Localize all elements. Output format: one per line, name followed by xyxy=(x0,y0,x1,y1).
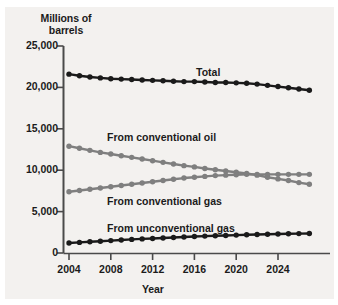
data-point xyxy=(98,150,103,155)
data-point xyxy=(171,177,176,182)
x-axis-tick-label: 2012 xyxy=(133,263,173,275)
data-point xyxy=(181,234,186,239)
data-point xyxy=(66,189,71,194)
data-point xyxy=(275,231,280,236)
data-point xyxy=(108,184,113,189)
chart-figure: Millions of barrels 25,00020,00015,00010… xyxy=(0,0,338,305)
data-point xyxy=(150,179,155,184)
x-axis-tick-label: 2004 xyxy=(49,263,89,275)
data-point xyxy=(139,180,144,185)
data-point xyxy=(265,83,270,88)
data-point xyxy=(286,172,291,177)
data-point xyxy=(160,178,165,183)
data-point xyxy=(286,231,291,236)
data-point xyxy=(77,73,82,78)
x-axis-ticks xyxy=(69,254,278,261)
data-point xyxy=(171,235,176,240)
data-point xyxy=(119,183,124,188)
data-point xyxy=(181,79,186,84)
data-point xyxy=(139,77,144,82)
data-point xyxy=(87,239,92,244)
series-from-conventional-oil xyxy=(66,143,312,186)
series-annotation-label: From conventional gas xyxy=(107,195,222,207)
data-point xyxy=(223,172,228,177)
data-point xyxy=(286,178,291,183)
data-point xyxy=(66,71,71,76)
x-axis-tick-label: 2020 xyxy=(216,263,256,275)
data-point xyxy=(129,182,134,187)
data-point xyxy=(307,88,312,93)
data-point xyxy=(192,164,197,169)
data-point xyxy=(286,85,291,90)
chart-series-group xyxy=(66,71,312,245)
data-point xyxy=(160,160,165,165)
data-point xyxy=(150,236,155,241)
data-point xyxy=(150,78,155,83)
data-point xyxy=(213,80,218,85)
data-point xyxy=(202,174,207,179)
series-annotation-label: From unconventional gas xyxy=(107,222,235,234)
data-point xyxy=(108,151,113,156)
data-point xyxy=(202,166,207,171)
x-axis-tick-label: 2016 xyxy=(174,263,214,275)
data-point xyxy=(98,239,103,244)
data-point xyxy=(77,240,82,245)
data-point xyxy=(171,161,176,166)
data-point xyxy=(213,173,218,178)
data-point xyxy=(108,76,113,81)
data-point xyxy=(181,175,186,180)
data-point xyxy=(171,78,176,83)
y-axis-tick-label: 5,000 xyxy=(6,205,58,217)
series-line xyxy=(69,74,309,90)
data-point xyxy=(296,180,301,185)
series-annotation-label: Total xyxy=(196,66,220,78)
data-point xyxy=(98,185,103,190)
data-point xyxy=(87,74,92,79)
data-point xyxy=(192,79,197,84)
data-point xyxy=(181,163,186,168)
data-point xyxy=(254,232,259,237)
data-point xyxy=(160,235,165,240)
data-point xyxy=(98,75,103,80)
data-point xyxy=(160,78,165,83)
data-point xyxy=(66,143,71,148)
series-annotation-label: From conventional oil xyxy=(107,131,216,143)
data-point xyxy=(234,80,239,85)
data-point xyxy=(244,81,249,86)
data-point xyxy=(150,158,155,163)
data-point xyxy=(87,148,92,153)
data-point xyxy=(296,231,301,236)
data-point xyxy=(213,167,218,172)
data-point xyxy=(108,238,113,243)
data-point xyxy=(296,86,301,91)
y-axis-tick-label: 20,000 xyxy=(6,80,58,92)
data-point xyxy=(119,76,124,81)
data-point xyxy=(265,172,270,177)
data-point xyxy=(119,237,124,242)
y-axis-tick-label: 0 xyxy=(6,246,58,258)
data-point xyxy=(265,232,270,237)
data-point xyxy=(192,175,197,180)
x-axis-title: Year xyxy=(142,283,164,295)
data-point xyxy=(202,233,207,238)
data-point xyxy=(244,232,249,237)
data-point xyxy=(77,146,82,151)
y-axis-tick-label: 10,000 xyxy=(6,163,58,175)
series-from-conventional-gas xyxy=(66,172,312,195)
y-axis-tick-label: 25,000 xyxy=(6,39,58,51)
series-total xyxy=(66,71,312,93)
y-axis-tick-label: 15,000 xyxy=(6,122,58,134)
data-point xyxy=(275,172,280,177)
data-point xyxy=(307,182,312,187)
data-point xyxy=(254,172,259,177)
data-point xyxy=(234,172,239,177)
data-point xyxy=(66,240,71,245)
data-point xyxy=(129,155,134,160)
data-point xyxy=(254,81,259,86)
data-point xyxy=(87,187,92,192)
data-point xyxy=(119,153,124,158)
series-line xyxy=(69,233,309,243)
data-point xyxy=(275,84,280,89)
data-point xyxy=(244,172,249,177)
x-axis-tick-label: 2024 xyxy=(258,263,298,275)
